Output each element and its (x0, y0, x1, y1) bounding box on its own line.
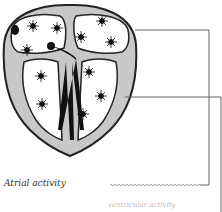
ventricular-activity-label-cut: ventricular activity (108, 201, 176, 209)
av-node (47, 42, 55, 50)
atrial-activity-trace (110, 185, 200, 186)
sa-node (11, 25, 19, 35)
right-atrium-chamber (11, 15, 66, 54)
atrial-activity-label: Atrial activity (4, 178, 66, 188)
leader-line-atrial (135, 30, 209, 185)
leader-line-ventricular (125, 97, 221, 212)
